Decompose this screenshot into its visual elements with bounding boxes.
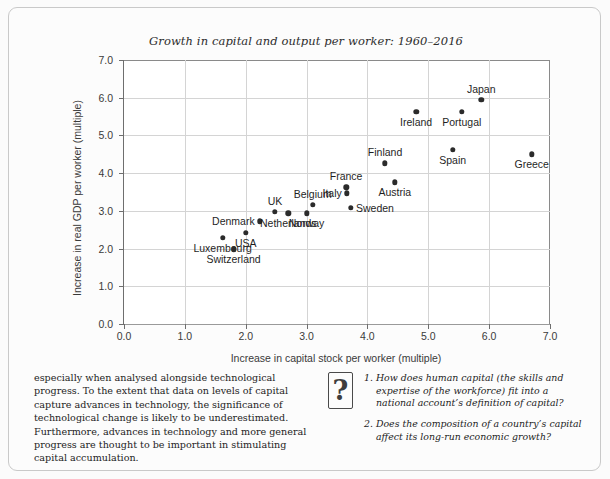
data-point [220, 235, 225, 240]
data-point-label: Portugal [442, 116, 481, 128]
y-axis-title: Increase in real GDP per worker (multipl… [71, 66, 83, 330]
x-tick [124, 324, 125, 329]
data-point [272, 209, 277, 214]
x-tick-label: 2.0 [238, 330, 253, 342]
y-tick [119, 60, 124, 61]
y-tick-label: 4.0 [98, 167, 113, 179]
x-tick-label: 4.0 [360, 330, 375, 342]
page-root: Growth in capital and output per worker:… [0, 0, 610, 479]
x-tick-label: 7.0 [543, 330, 558, 342]
data-point [344, 190, 349, 195]
x-tick-label: 5.0 [421, 330, 436, 342]
x-tick-label: 3.0 [299, 330, 314, 342]
chart-title: Growth in capital and output per worker:… [23, 34, 589, 48]
x-tick [246, 324, 247, 329]
data-point-label: USA [235, 237, 257, 249]
gridline-vertical [489, 60, 490, 324]
y-tick-label: 1.0 [98, 280, 113, 292]
data-point [343, 185, 348, 190]
gridline-vertical [367, 60, 368, 324]
data-point-label: UK [268, 195, 283, 207]
x-tick [185, 324, 186, 329]
x-tick [307, 324, 308, 329]
y-tick-label: 2.0 [98, 243, 113, 255]
question-text-1: 1. How does human capital (the skills an… [364, 372, 586, 410]
x-tick-label: 0.0 [117, 330, 132, 342]
page-frame: Growth in capital and output per worker:… [8, 7, 601, 471]
x-tick-label: 1.0 [178, 330, 193, 342]
gridline-vertical [428, 60, 429, 324]
plot-top-border [124, 60, 550, 61]
data-point [529, 152, 534, 157]
data-point [286, 211, 291, 216]
data-point [304, 211, 309, 216]
gridline-horizontal [124, 135, 550, 136]
question-mark-icon: ? [328, 372, 353, 409]
x-tick-label: 6.0 [482, 330, 497, 342]
data-point-label: Italy [322, 187, 341, 199]
y-tick-label: 0.0 [98, 318, 113, 330]
gridline-vertical [185, 60, 186, 324]
data-point [243, 230, 248, 235]
data-point-label: Ireland [400, 116, 432, 128]
y-tick [119, 211, 124, 212]
y-tick [119, 286, 124, 287]
scatter-chart: Growth in capital and output per worker:… [23, 22, 589, 367]
x-tick [489, 324, 490, 329]
data-point-label: Finland [368, 146, 402, 158]
y-tick-label: 6.0 [98, 92, 113, 104]
data-point [479, 97, 484, 102]
data-point-label: Austria [378, 186, 411, 198]
footer-section: especially when analysed alongside techn… [23, 366, 589, 470]
data-point-label: Switzerland [206, 253, 260, 265]
plot-right-border [549, 60, 550, 324]
x-axis-title: Increase in capital stock per worker (mu… [123, 352, 549, 364]
y-tick [119, 135, 124, 136]
x-tick [428, 324, 429, 329]
data-point-label: Denmark [212, 215, 255, 227]
y-tick [119, 249, 124, 250]
data-point-label: France [330, 170, 363, 182]
question-text-2: 2. Does the composition of a country’s c… [364, 418, 586, 443]
question-item: 1. How does human capital (the skills an… [364, 372, 586, 410]
plot-area: 0.01.02.03.04.05.06.07.00.01.02.03.04.05… [123, 60, 550, 325]
gridline-horizontal [124, 98, 550, 99]
data-point-label: Spain [439, 154, 466, 166]
data-point-label: Greece [515, 158, 549, 170]
y-tick-label: 3.0 [98, 205, 113, 217]
y-tick [119, 98, 124, 99]
data-point-label: Sweden [356, 202, 394, 214]
gridline-horizontal [124, 249, 550, 250]
gridline-horizontal [124, 286, 550, 287]
y-tick-label: 7.0 [98, 54, 113, 66]
data-point [310, 202, 315, 207]
data-point [459, 109, 464, 114]
data-point [348, 205, 353, 210]
gridline-vertical [246, 60, 247, 324]
data-point [392, 179, 397, 184]
data-point [382, 161, 387, 166]
y-tick [119, 173, 124, 174]
x-tick [550, 324, 551, 329]
data-point [413, 109, 418, 114]
data-point-label: Japan [467, 83, 496, 95]
question-item: 2. Does the composition of a country’s c… [364, 418, 586, 443]
data-point-label: Norway [289, 217, 325, 229]
gridline-horizontal [124, 211, 550, 212]
y-tick [119, 324, 124, 325]
x-tick [367, 324, 368, 329]
data-point [450, 147, 455, 152]
y-tick-label: 5.0 [98, 129, 113, 141]
body-paragraph: especially when analysed alongside techn… [34, 371, 314, 465]
